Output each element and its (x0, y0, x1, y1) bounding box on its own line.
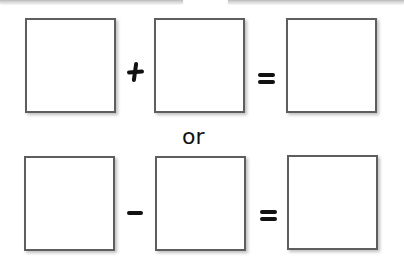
equals-sign-row2 (260, 210, 277, 222)
previous-box-edge-left (0, 0, 183, 3)
equals-sign-row1 (258, 73, 275, 85)
plus-sign (126, 62, 144, 82)
minuend-box[interactable] (24, 156, 115, 251)
previous-box-edge-right (228, 0, 404, 3)
difference-box[interactable] (287, 155, 378, 250)
minus-sign (127, 211, 143, 215)
addend-2-box[interactable] (154, 18, 245, 113)
addend-1-box[interactable] (25, 18, 116, 113)
subtrahend-box[interactable] (155, 156, 246, 251)
or-label: or (182, 124, 205, 149)
sum-box[interactable] (286, 18, 377, 113)
